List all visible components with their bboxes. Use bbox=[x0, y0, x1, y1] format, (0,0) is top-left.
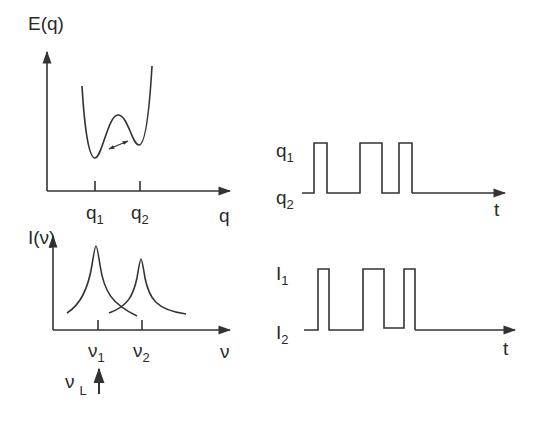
i2-level-label: I2 bbox=[276, 322, 289, 347]
diagram-canvas: E(q) q q1 q2 I(ν) ν ν1 ν2 νL q1 q2 t I1 … bbox=[0, 0, 535, 421]
i-trace-panel: I1 I2 t bbox=[276, 263, 515, 359]
frequency-axis-label: ν bbox=[220, 341, 230, 362]
nu1-tick-label: ν1 bbox=[88, 340, 105, 365]
q1-level-label: q1 bbox=[276, 140, 294, 165]
q-time-label: t bbox=[494, 199, 500, 220]
q2-tick-label: q2 bbox=[131, 202, 149, 227]
intensity-axis-label: I(ν) bbox=[28, 227, 55, 248]
energy-axis-label: E(q) bbox=[28, 13, 64, 34]
laser-frequency-label: νL bbox=[65, 371, 87, 398]
double-well-curve bbox=[82, 66, 152, 158]
q-axis-label: q bbox=[219, 205, 230, 226]
potential-panel: E(q) q q1 q2 bbox=[28, 13, 230, 227]
peak-1-curve bbox=[67, 246, 137, 316]
tunneling-double-arrow-icon bbox=[109, 141, 128, 149]
q2-level-label: q2 bbox=[276, 187, 294, 212]
nu2-tick-label: ν2 bbox=[133, 340, 150, 365]
q-telegraph-signal bbox=[302, 143, 412, 193]
q1-tick-label: q1 bbox=[86, 202, 104, 227]
i-time-label: t bbox=[503, 338, 509, 359]
spectrum-panel: I(ν) ν ν1 ν2 νL bbox=[28, 227, 230, 398]
q-trace-panel: q1 q2 t bbox=[276, 140, 505, 220]
i1-level-label: I1 bbox=[276, 263, 289, 288]
intensity-telegraph-signal bbox=[304, 269, 415, 330]
